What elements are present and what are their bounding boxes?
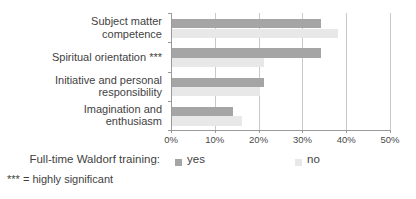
x-tick-label-20%: 20% <box>242 134 276 145</box>
gridline-40% <box>346 13 347 130</box>
x-tick-label-10%: 10% <box>198 134 232 145</box>
category-label-3: Imagination andenthusiasm <box>0 101 162 130</box>
gridline-50% <box>390 13 391 130</box>
x-tick-label-50%: 50% <box>373 134 407 145</box>
x-axis-line <box>171 130 391 131</box>
legend-label-no: no <box>307 153 320 165</box>
bar-yes-0 <box>172 19 321 28</box>
bar-no-1 <box>172 58 264 67</box>
legend-label-yes: yes <box>187 153 205 165</box>
category-label-1: Spiritual orientation *** <box>0 42 162 71</box>
bar-yes-2 <box>172 78 264 87</box>
category-label-2: Initiative and personalresponsibility <box>0 72 162 101</box>
significance-footnote: *** = highly significant <box>7 173 113 185</box>
bar-no-2 <box>172 87 260 96</box>
legend-swatch-no <box>295 159 302 166</box>
bar-yes-3 <box>172 107 233 116</box>
x-tick-label-40%: 40% <box>329 134 363 145</box>
legend-title: Full-time Waldorf training: <box>29 153 160 165</box>
bar-yes-1 <box>172 48 321 57</box>
category-label-0: Subject mattercompetence <box>0 13 162 42</box>
x-tick-label-30%: 30% <box>285 134 319 145</box>
waldorf-training-bar-chart: 0%10%20%30%40%50%Subject mattercompetenc… <box>0 0 416 199</box>
x-tick-label-0%: 0% <box>154 134 188 145</box>
legend-swatch-yes <box>175 159 182 166</box>
bar-no-3 <box>172 116 242 125</box>
bar-no-0 <box>172 29 338 38</box>
